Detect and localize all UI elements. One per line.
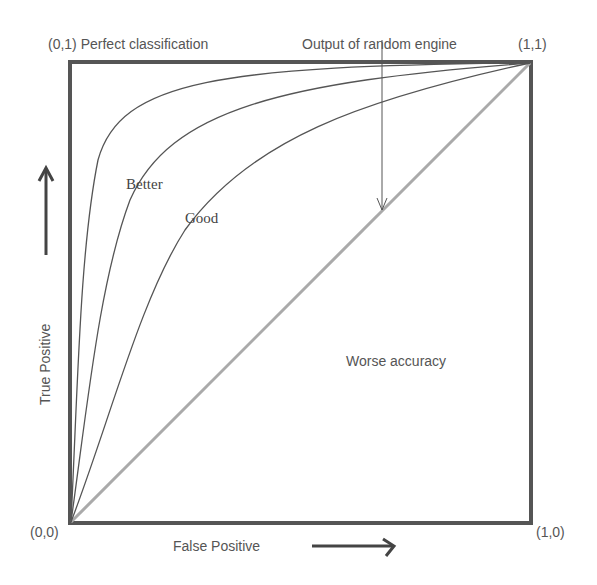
label-worse-accuracy: Worse accuracy [346, 353, 446, 369]
label-corner-1-1: (1,1) [518, 36, 547, 52]
label-corner-0-0: (0,0) [30, 524, 59, 540]
random-diagonal-line [71, 63, 530, 522]
roc-diagram [0, 0, 597, 585]
y-axis-label: True Positive [37, 324, 53, 405]
x-axis-label: False Positive [173, 538, 260, 554]
label-corner-1-0: (1,0) [536, 524, 565, 540]
label-perfect-classification: (0,1) Perfect classification [48, 36, 208, 52]
label-good: Good [185, 210, 218, 227]
label-better: Better [126, 176, 163, 193]
label-random-engine: Output of random engine [302, 36, 457, 52]
